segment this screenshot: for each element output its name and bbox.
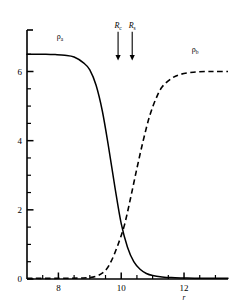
annotation-label-rs: Rs — [128, 21, 136, 31]
rho-b-subscript: b — [196, 49, 199, 55]
rc-subscript: c — [119, 25, 122, 31]
curve-label-rho-a: ρa — [57, 32, 64, 42]
arrow-head-R_s — [130, 55, 135, 61]
axes-group — [27, 30, 228, 279]
y-tick-label-0: 0 — [18, 274, 23, 284]
curve-label-rho-b: ρb — [192, 45, 199, 55]
y-axis-tick-labels: 0 2 4 6 — [18, 67, 23, 285]
rho-a-subscript: a — [61, 36, 64, 42]
y-tick-label-2: 2 — [18, 205, 23, 215]
arrow-head-R_c — [115, 55, 120, 61]
x-axis-title: r — [183, 293, 186, 302]
density-profile-chart: 0 2 4 6 8 10 12 r ρa ρb Rc Rs — [0, 0, 235, 306]
x-tick-label-12: 12 — [180, 283, 189, 293]
x-tick-label-10: 10 — [117, 283, 127, 293]
rs-subscript: s — [134, 25, 136, 31]
x-axis-tick-labels: 8 10 12 — [56, 283, 188, 293]
y-tick-label-4: 4 — [18, 136, 23, 146]
curve-rho-a — [27, 54, 228, 278]
y-tick-label-6: 6 — [18, 67, 23, 77]
annotation-arrows-group — [115, 32, 134, 61]
figure-container: 0 2 4 6 8 10 12 r ρa ρb Rc Rs — [0, 0, 235, 306]
x-tick-label-8: 8 — [56, 283, 61, 293]
annotation-label-rc: Rc — [113, 21, 122, 31]
